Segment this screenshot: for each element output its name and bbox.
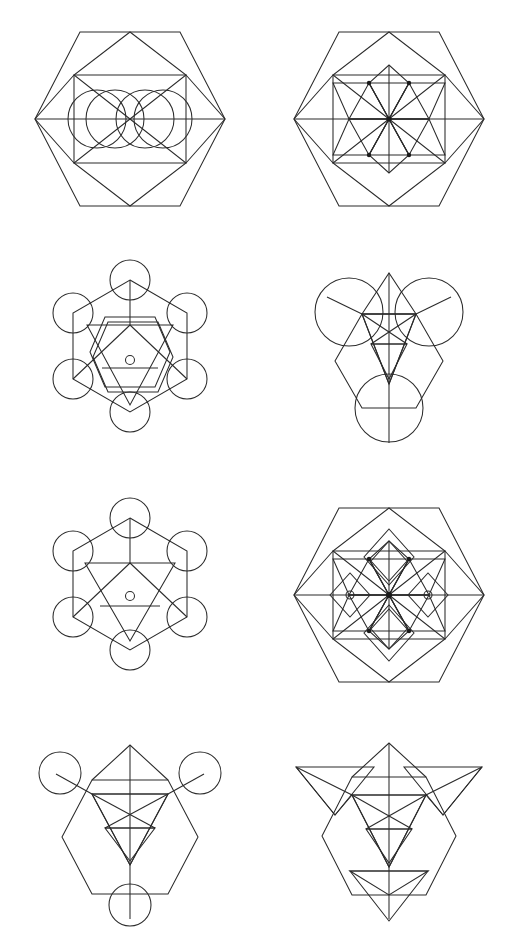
spoke-left-to-bottom [362, 314, 389, 384]
diagonal-left [73, 325, 130, 379]
rosette-rhombus-5 [333, 119, 389, 155]
triangle-upper-right [404, 767, 482, 815]
figure-8-metatron-three-triangles[interactable]: metatron-three-triangles [274, 733, 504, 933]
figure-4-metatron-three-large-circles[interactable]: metatron-three-large-circles [279, 257, 499, 457]
diagonal-left [73, 563, 130, 617]
center-small-circle [125, 591, 134, 600]
rosette-rhombus-2 [389, 83, 445, 119]
vertex-dot-lower-right [407, 629, 411, 633]
figure-5-hexagon-six-circles-single-triangle[interactable]: hexagon-six-circles-single-triangle [30, 493, 230, 698]
figure-cell-4[interactable]: metatron-three-large-circles [259, 238, 519, 476]
rosette-rhombus-6 [333, 83, 389, 119]
stem-upper-right [416, 297, 451, 314]
vertex-dot-upper-right [407, 557, 411, 561]
radial-spoke-4 [389, 119, 409, 155]
circle-upper-left [39, 752, 81, 794]
radial-spoke-1 [369, 83, 389, 119]
figure-2-nested-hexagon-star-rosette[interactable]: nested-hexagon-star-rosette [284, 19, 494, 219]
glyph-sheet: hexagon-with-four-circles nested-hexagon… [0, 0, 519, 952]
figure-7-metatron-three-small-circles[interactable]: metatron-three-small-circles [20, 733, 240, 933]
triangle-upper-left [296, 767, 374, 815]
vertex-dot-lower-left [367, 153, 371, 157]
center-small-circle [125, 355, 134, 364]
down-triangle [85, 563, 175, 641]
figure-cell-2[interactable]: nested-hexagon-star-rosette [259, 0, 519, 238]
vertex-dot-upper-right [407, 81, 411, 85]
vertex-dot-lower-left [367, 629, 371, 633]
diagonal-right [130, 325, 187, 379]
figure-cell-5[interactable]: hexagon-six-circles-single-triangle [0, 476, 259, 714]
vertex-dot-lower-right [407, 153, 411, 157]
figure-cell-8[interactable]: metatron-three-triangles [259, 714, 519, 952]
stem-upper-right [168, 774, 204, 794]
spoke-right-to-bottom [389, 314, 416, 384]
figure-3-hexagram-hexagon-six-circles[interactable]: hexagram-hexagon-six-circles [30, 255, 230, 460]
rosette-rhombus-6 [333, 559, 389, 595]
figure-cell-3[interactable]: hexagram-hexagon-six-circles [0, 238, 259, 476]
vertex-dot-center [386, 116, 391, 121]
radial-spoke-5 [369, 119, 389, 155]
vertex-dot-upper-left [367, 557, 371, 561]
figure-1-hexagon-with-four-circles[interactable]: hexagon-with-four-circles [25, 19, 235, 219]
triangle-upper-left-overlap [296, 767, 352, 815]
rosette-rhombus-5 [333, 595, 389, 631]
circle-upper-right [179, 752, 221, 794]
rosette-rhombus-3 [389, 119, 445, 155]
figure-cell-7[interactable]: metatron-three-small-circles [0, 714, 259, 952]
stem-upper-left [327, 297, 362, 314]
radial-spoke-2 [389, 83, 409, 119]
vertex-dot-center [386, 592, 392, 598]
figure-cell-6[interactable]: hexagon-rosette-with-outer-diamonds [259, 476, 519, 714]
rosette-rhombus-3 [389, 595, 445, 631]
figure-6-hexagon-rosette-with-outer-diamonds[interactable]: hexagon-rosette-with-outer-diamonds [284, 495, 494, 695]
rosette-rhombus-2 [389, 559, 445, 595]
figure-cell-1[interactable]: hexagon-with-four-circles [0, 0, 259, 238]
diagonal-right [130, 563, 187, 617]
triangle-upper-right-overlap [426, 767, 482, 815]
stem-upper-left [56, 774, 92, 794]
vertex-dot-upper-left [367, 81, 371, 85]
